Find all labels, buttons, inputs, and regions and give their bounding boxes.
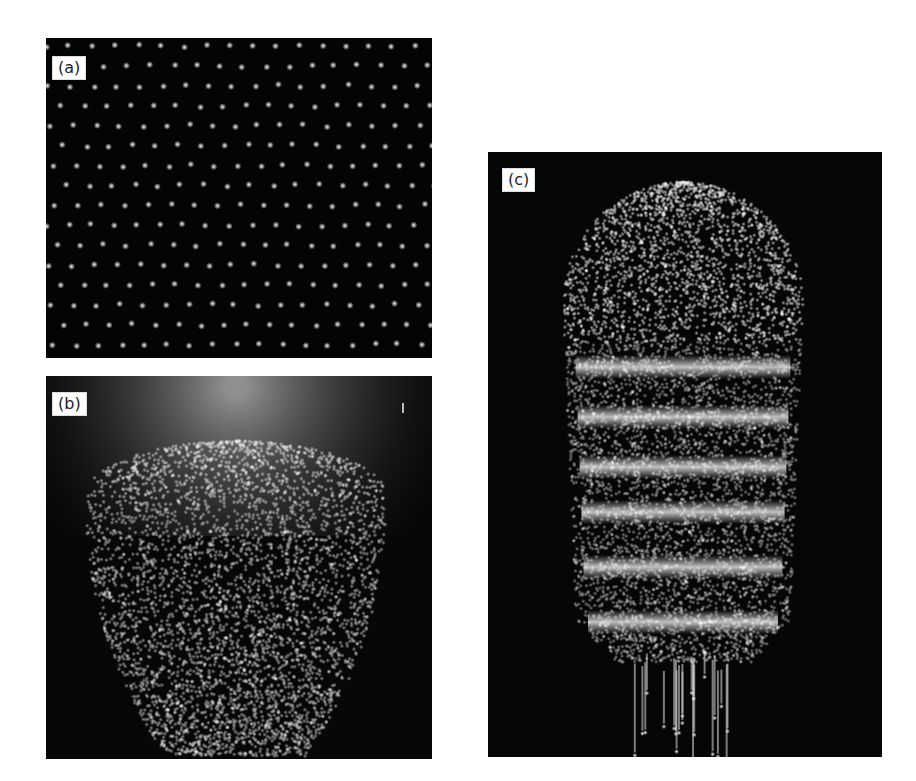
cluster-image: [46, 376, 432, 759]
panel-label-b: (b): [52, 392, 87, 416]
lattice-image: [46, 38, 432, 358]
panel-b-cluster: (b): [46, 376, 432, 759]
panel-label-c: (c): [502, 168, 535, 192]
panel-label-a: (a): [52, 56, 86, 80]
panel-a-lattice: (a): [46, 38, 432, 358]
panel-c-capsule: (c): [488, 152, 882, 757]
capsule-image: [488, 152, 882, 757]
